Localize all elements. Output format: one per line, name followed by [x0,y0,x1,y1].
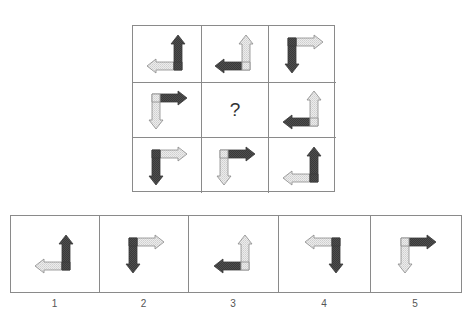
answer-label-3: 3 [188,298,278,314]
answer-labels: 12345 [10,298,462,314]
l-arrow-icon [123,234,165,274]
answer-label-5: 5 [370,298,460,314]
grid-cell-r2-c2 [269,138,336,193]
answer-options [10,215,462,293]
l-arrow-icon [213,234,255,274]
answer-label-2: 2 [99,298,188,314]
l-arrow-icon [395,234,437,274]
l-arrow-icon [282,90,324,130]
question-mark: ? [230,99,241,121]
grid-cell-r0-c0 [133,26,202,83]
l-arrow-icon [146,34,188,74]
answer-option-5[interactable] [371,216,461,292]
grid-cell-r2-c1 [202,138,269,193]
missing-cell: ? [202,83,269,138]
l-arrow-icon [214,146,256,186]
l-arrow-icon [282,34,324,74]
answer-option-3[interactable] [189,216,279,292]
grid-cell-r0-c1 [202,26,269,83]
grid-cell-r1-c0 [133,83,202,138]
answer-label-1: 1 [10,298,99,314]
answer-option-4[interactable] [279,216,371,292]
l-arrow-icon [34,234,76,274]
grid-cell-r0-c2 [269,26,336,83]
l-arrow-icon [304,234,346,274]
grid-cell-r2-c0 [133,138,202,193]
l-arrow-icon [146,90,188,130]
grid-cell-r1-c2 [269,83,336,138]
l-arrow-icon [214,34,256,74]
answer-label-4: 4 [278,298,370,314]
answer-option-1[interactable] [11,216,100,292]
answer-option-2[interactable] [100,216,189,292]
puzzle-grid: ? [132,25,335,192]
l-arrow-icon [282,146,324,186]
l-arrow-icon [146,146,188,186]
